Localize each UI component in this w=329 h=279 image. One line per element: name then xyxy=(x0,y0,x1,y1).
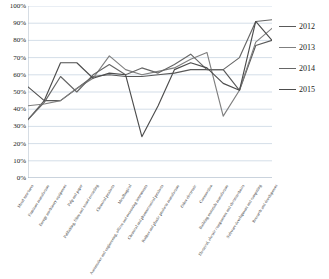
y-axis-tick-label: 90% xyxy=(0,20,26,27)
x-axis-category-label: Publishing, films and sound recording xyxy=(63,184,100,239)
y-axis: 0%10%20%30%40%50%60%70%80%90%100% xyxy=(0,0,26,182)
series-lines xyxy=(28,20,272,137)
plot-svg xyxy=(28,6,272,178)
series-line-2013 xyxy=(28,28,272,116)
legend-item-2014[interactable]: 2014 xyxy=(279,58,329,79)
x-axis-category-label: Metallurgical xyxy=(117,184,133,205)
legend-label: 2015 xyxy=(299,86,315,94)
y-axis-tick-label: 30% xyxy=(0,123,26,130)
y-axis-tick-label: 100% xyxy=(0,3,26,10)
legend-item-2015[interactable]: 2015 xyxy=(279,79,329,100)
gridlines xyxy=(28,6,272,178)
x-axis-category-label: Construction xyxy=(199,184,214,204)
legend-label: 2014 xyxy=(299,65,315,73)
y-axis-tick-label: 70% xyxy=(0,54,26,61)
y-axis-tick-label: 0% xyxy=(0,175,26,182)
legend-item-2013[interactable]: 2013 xyxy=(279,37,329,58)
chart-legend: 2012201320142015 xyxy=(279,16,329,100)
series-line-2014 xyxy=(28,20,272,120)
y-axis-tick-label: 50% xyxy=(0,89,26,96)
legend-line-swatch xyxy=(279,26,296,27)
y-axis-tick-label: 40% xyxy=(0,106,26,113)
legend-line-swatch xyxy=(279,89,296,90)
legend-label: 2012 xyxy=(299,23,315,31)
y-axis-tick-label: 80% xyxy=(0,37,26,44)
legend-line-swatch xyxy=(279,68,296,69)
x-axis: Metal structuresFurniture manufactureEne… xyxy=(28,178,272,279)
legend-item-2012[interactable]: 2012 xyxy=(279,16,329,37)
x-axis-category-label: Chemical products xyxy=(96,184,116,213)
series-line-2015 xyxy=(28,21,272,136)
legend-line-swatch xyxy=(279,47,296,48)
plot-area xyxy=(28,6,272,178)
line-chart: 0%10%20%30%40%50%60%70%80%90%100% Metal … xyxy=(0,0,329,279)
y-axis-tick-label: 20% xyxy=(0,140,26,147)
legend-label: 2013 xyxy=(299,44,315,52)
y-axis-tick-label: 60% xyxy=(0,71,26,78)
y-axis-tick-label: 10% xyxy=(0,157,26,164)
x-axis-category-label: Other electronic xyxy=(180,184,198,209)
